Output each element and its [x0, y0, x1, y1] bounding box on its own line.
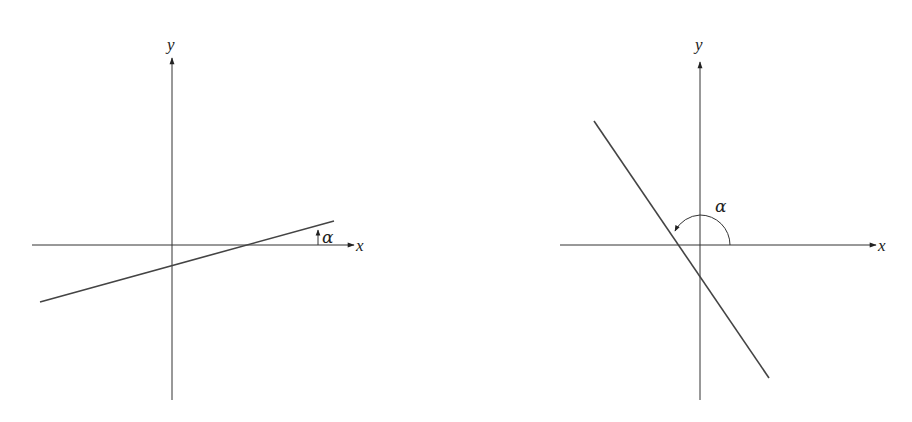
left-figure: α x y	[32, 35, 364, 400]
left-inclined-line	[40, 221, 334, 302]
right-figure: α x y	[560, 35, 886, 400]
left-x-label: x	[355, 236, 364, 255]
right-alpha-label: α	[715, 196, 727, 216]
diagram-canvas: α x y α x y	[0, 0, 912, 422]
right-y-label: y	[693, 35, 703, 54]
right-angle-arc	[675, 215, 730, 245]
left-y-label: y	[165, 35, 175, 54]
left-alpha-label: α	[322, 227, 334, 247]
right-x-label: x	[877, 236, 886, 255]
right-inclined-line	[594, 121, 769, 378]
